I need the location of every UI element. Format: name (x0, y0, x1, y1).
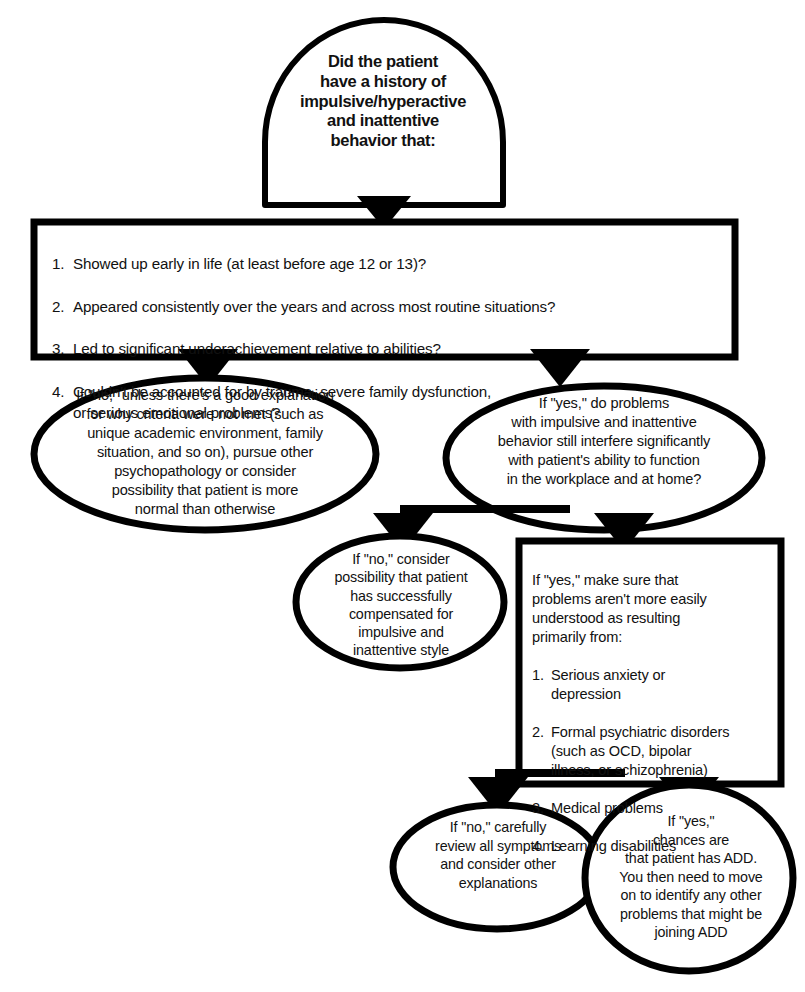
yes-box-item-number: 2. (532, 723, 551, 742)
criteria-item-text: Led to significant underachievement rela… (73, 338, 722, 359)
left-no-node-label: If "no," unless there's a good explanati… (46, 386, 364, 519)
yes-box-item: 2. Formal psychiatric disorders (such as… (532, 723, 776, 780)
yes-box-intro: If "yes," make sure that problems aren't… (532, 571, 776, 647)
question-node-label: Did the patient have a history of impuls… (266, 52, 500, 151)
criteria-item: 3. Led to significant underachievement r… (52, 338, 722, 359)
yes-box-item-number: 3. (532, 799, 551, 818)
connector-question-to-criteria (357, 196, 411, 229)
yes-box-item-text: Serious anxiety or depression (551, 666, 776, 704)
criteria-item: 2. Appeared consistently over the years … (52, 296, 722, 317)
bottom-yes-node-label: If "yes," chances are that patient has A… (594, 812, 788, 942)
flowchart-canvas: Did the patient have a history of impuls… (0, 0, 805, 992)
criteria-item: 1. Showed up early in life (at least bef… (52, 253, 722, 274)
yes-box-item-number: 1. (532, 666, 551, 685)
right-yes-node-label: If "yes," do problems with impulsive and… (458, 394, 750, 489)
yes-box-item-text: Formal psychiatric disorders (such as OC… (551, 723, 776, 780)
criteria-item-number: 3. (52, 338, 73, 359)
criteria-item-text: Showed up early in life (at least before… (73, 253, 722, 274)
mid-no-node-label: If "no," consider possibility that patie… (306, 550, 496, 660)
connector-right-yes-to-yes-box (594, 513, 654, 551)
criteria-item-number: 1. (52, 253, 73, 274)
yes-box-item: 1. Serious anxiety or depression (532, 666, 776, 704)
bottom-no-node-label: If "no," carefully review all symptoms a… (400, 818, 596, 892)
connector-right-yes-to-mid-no (373, 505, 570, 551)
criteria-item-text: Appeared consistently over the years and… (73, 296, 722, 317)
criteria-item-number: 2. (52, 296, 73, 317)
